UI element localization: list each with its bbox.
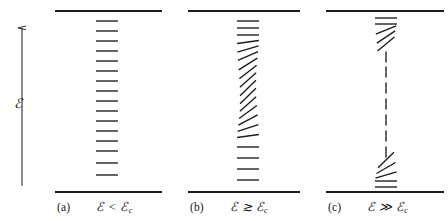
level-line-b-14 [238,125,259,132]
level-line-b-15 [237,134,259,137]
panel-c [326,11,444,192]
figure-canvas [0,0,448,221]
panel-b [188,11,300,192]
panel-index-c: (c) [328,201,341,213]
top-cluster-line-c-4 [378,37,395,51]
panel-expression-a-main: ℰ < ℰ [96,200,129,214]
level-line-b-3 [237,40,259,43]
bottom-cluster-line-c-1 [376,163,395,174]
panel-caption-a: (a) ℰ < ℰc [57,196,133,218]
panel-expression-c-subscript: c [404,205,408,215]
level-line-b-4 [237,46,258,52]
panel-expression-c-main: ℰ ≫ ℰ [367,200,404,214]
panel-expression-a-subscript: c [129,205,133,215]
panel-index-b: (b) [190,201,204,213]
panel-expression-c: ℰ ≫ ℰc [367,199,408,215]
energy-axis-label: ℰ [14,95,22,112]
panel-expression-b: ℰ ≳ ℰc [230,199,268,215]
panel-expression-b-main: ℰ ≳ ℰ [230,200,264,214]
energy-level-figure: ℰ (a) ℰ < ℰc (b) ℰ ≳ ℰc (c) ℰ ≫ ℰc [0,0,448,221]
panel-levels-group [55,11,444,192]
level-line-b-10 [240,88,256,103]
level-line-b-6 [239,58,258,70]
level-line-b-8 [240,73,256,88]
panel-expression-b-subscript: c [264,205,268,215]
panel-caption-b: (b) ℰ ≳ ℰc [190,196,268,218]
panel-caption-c: (c) ℰ ≫ ℰc [328,196,408,218]
panel-captions-row: (a) ℰ < ℰc (b) ℰ ≳ ℰc (c) ℰ ≫ ℰc [0,196,448,221]
panel-index-a: (a) [57,201,70,213]
panel-a [55,11,162,192]
level-line-b-9 [240,80,256,95]
level-line-b-11 [240,97,256,112]
panel-expression-a: ℰ < ℰc [96,199,132,215]
